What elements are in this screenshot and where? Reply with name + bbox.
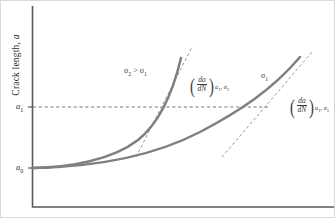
sigma1-subscript: 1	[265, 76, 268, 82]
y-tick-label-a1: a1	[16, 101, 23, 113]
fraction-numerator: da	[297, 97, 307, 105]
paren-open-icon: (	[190, 80, 195, 92]
fraction-da-dn-sigma2: da dN	[196, 76, 208, 92]
fraction-da-dn-sigma1: da dN	[296, 97, 308, 113]
y-tick-label-a0-sub: 0	[20, 168, 23, 174]
sigma1-subscript-compare: 1	[144, 71, 147, 77]
greater-than-sigma: > σ	[131, 66, 144, 75]
annotation-growth-rate-sigma1: ( da dN ) a1, σ1	[289, 97, 329, 113]
y-axis-label-text: Crack length,	[11, 39, 21, 95]
subscript-sigma-index: 2	[227, 87, 229, 92]
annotation-stress-sigma1: σ1	[261, 71, 268, 82]
y-axis-label-symbol: a	[11, 34, 21, 39]
paren-close-icon: )	[309, 101, 314, 113]
y-tick-label-a0: a0	[16, 162, 23, 174]
fraction-denominator: dN	[297, 105, 308, 114]
crack-growth-figure: Crack length, a a1 a0 σ2 > σ1 σ1 ( da dN…	[0, 0, 335, 218]
annotation-stress-comparison: σ2 > σ1	[124, 66, 147, 77]
figure-border	[1, 1, 335, 218]
growth-rate-subscript-sigma2: a1, σ2	[215, 83, 229, 93]
y-tick-label-a1-sub: 1	[20, 107, 23, 113]
plot-canvas	[0, 0, 335, 218]
fraction-numerator: da	[197, 76, 207, 84]
subscript-sigma-index: 1	[327, 108, 329, 113]
paren-close-icon: )	[209, 80, 214, 92]
annotation-growth-rate-sigma2: ( da dN ) a1, σ2	[189, 76, 229, 92]
paren-open-icon: (	[290, 101, 295, 113]
fraction-denominator: dN	[197, 84, 208, 93]
growth-rate-subscript-sigma1: a1, σ1	[315, 104, 329, 114]
